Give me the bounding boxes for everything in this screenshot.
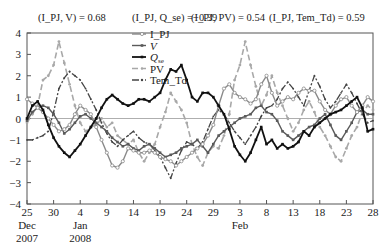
legend-entry: Tem_Td [132, 74, 188, 86]
x-sublabel: 2007 [16, 232, 39, 244]
x-tick-label: 8 [264, 206, 270, 218]
y-tick-label: 4 [16, 27, 22, 39]
x-tick-label: 28 [368, 206, 380, 218]
y-tick-label: −2 [9, 155, 21, 167]
y-tick-label: 2 [16, 70, 22, 82]
x-tick-label: 23 [341, 206, 353, 218]
series-group [25, 40, 374, 179]
y-tick-label: 3 [16, 48, 22, 60]
y-tick-label: −1 [9, 134, 21, 146]
x-sublabel: Dec [18, 219, 36, 231]
y-tick-label: 0 [16, 113, 22, 125]
x-axis: 25Dec2007304Jan20089141924293Feb81318232… [16, 200, 379, 244]
legend-label: V [150, 40, 158, 52]
x-tick-label: 18 [314, 206, 326, 218]
x-tick-label: 9 [104, 206, 110, 218]
x-sublabel: Feb [232, 219, 249, 231]
x-tick-label: 19 [155, 206, 167, 218]
x-sublabel: Jan [73, 219, 88, 231]
annotation-pv: (I_PJ, PV) = 0.54 [191, 12, 266, 24]
x-sublabel: 2008 [69, 232, 92, 244]
legend-label: Tem_Td [150, 74, 188, 86]
line-chart: (I_PJ, V) = 0.68 (I_PJ, Q_se) =−0.39 (I_… [0, 0, 387, 250]
x-tick-label: 4 [77, 206, 83, 218]
x-tick-label: 24 [181, 206, 193, 218]
x-tick-label: 3 [237, 206, 243, 218]
legend-entry: I_PJ [132, 28, 170, 40]
y-tick-label: −4 [9, 198, 21, 210]
legend-label: PV [150, 63, 164, 75]
series-tem-td [26, 71, 374, 180]
correlation-annotations: (I_PJ, V) = 0.68 (I_PJ, Q_se) =−0.39 (I_… [38, 12, 365, 24]
annotation-v: (I_PJ, V) = 0.68 [38, 12, 106, 24]
x-tick-label: 29 [208, 206, 220, 218]
y-tick-label: −3 [9, 177, 21, 189]
legend-label: I_PJ [150, 28, 170, 40]
legend-entry: PV [132, 63, 164, 75]
annotation-tem-td: (I_PJ, Tem_Td) = 0.59 [269, 12, 365, 24]
x-tick-label: 13 [288, 206, 300, 218]
x-tick-label: 14 [128, 206, 140, 218]
legend: I_PJVQsePVTem_Td [132, 28, 188, 86]
legend-entry: V [132, 40, 158, 52]
x-tick-label: 25 [22, 206, 34, 218]
y-tick-label: 1 [16, 91, 22, 103]
x-tick-label: 30 [48, 206, 60, 218]
